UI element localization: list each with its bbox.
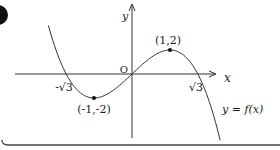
y-axis-label: y: [121, 10, 129, 23]
problem-number-marker: [0, 5, 8, 25]
local-max-label: (1,2): [155, 34, 181, 47]
curve-label: y = f(x): [221, 103, 263, 116]
function-graph: (-1,-2) (1,2) O y x -√3 √3 y = f(x): [0, 0, 280, 150]
neg-root3-label: -√3: [55, 81, 73, 94]
local-min-label: (-1,-2): [77, 103, 111, 116]
local-min-point: [92, 96, 96, 100]
local-max-point: [168, 48, 172, 52]
root3-label: √3: [189, 81, 203, 94]
x-axis-label: x: [224, 71, 231, 85]
frame-border: [2, 140, 280, 145]
origin-label: O: [120, 64, 128, 75]
graph-figure: (-1,-2) (1,2) O y x -√3 √3 y = f(x): [0, 0, 280, 150]
